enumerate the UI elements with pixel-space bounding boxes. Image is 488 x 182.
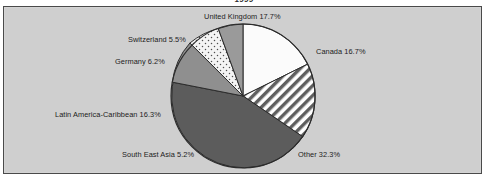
pie-chart [0, 0, 488, 182]
chart-container: 1999 [0, 0, 488, 182]
slice-label-canada: Canada 16.7% [316, 47, 366, 56]
slice-label-latin-america-caribbean: Latin America-Caribbean 16.3% [55, 110, 161, 119]
slice-label-switzerland: Switzerland 5.5% [128, 35, 186, 44]
slice-label-germany: Germany 6.2% [115, 57, 165, 66]
slice-label-united-kingdom: United Kingdom 17.7% [204, 12, 281, 21]
slice-label-other: Other 32.3% [298, 150, 340, 159]
slice-label-south-east-asia: South East Asia 5.2% [122, 150, 194, 159]
